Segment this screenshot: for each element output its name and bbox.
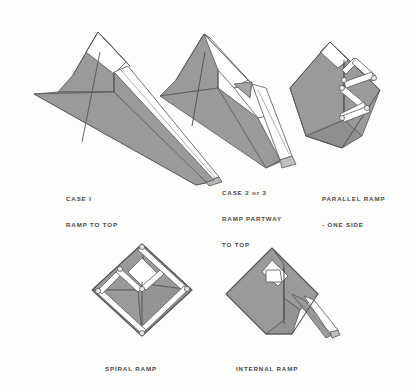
caption-parallel-line-2: - ONE SIDE — [322, 221, 385, 230]
diagram-parallel-ramp-one-side — [284, 24, 404, 159]
ramp-landing-2 — [371, 75, 376, 80]
caption-case-1-line-1: CASE I — [66, 195, 118, 204]
caption-spiral-line-1: SPIRAL RAMP — [105, 365, 157, 374]
caption-internal-line-1: INTERNAL RAMP — [236, 365, 298, 374]
caption-parallel-line-1: PARALLEL RAMP — [322, 195, 385, 204]
spiral-landing-east — [184, 286, 189, 291]
caption-parallel-ramp: PARALLEL RAMP - ONE SIDE — [322, 178, 385, 247]
spiral-landing-west — [95, 288, 100, 293]
caption-spiral-ramp: SPIRAL RAMP — [105, 348, 157, 391]
caption-case-1: CASE I RAMP TO TOP — [66, 178, 118, 247]
spiral-landing-center — [139, 286, 144, 291]
caption-case-1-line-2: RAMP TO TOP — [66, 221, 118, 230]
caption-internal-ramp: INTERNAL RAMP — [236, 348, 298, 391]
spiral-landing-south — [139, 330, 144, 335]
caption-case-2-line-1: CASE 2 or 3 — [222, 189, 282, 198]
caption-case-2-line-2: RAMP PARTWAY — [222, 215, 282, 224]
ramp-landing-5 — [339, 115, 344, 120]
ramp-landing-3 — [339, 85, 344, 90]
internal-ramp-opening — [266, 270, 282, 282]
spiral-landing-nw — [117, 266, 122, 271]
diagram-internal-ramp — [222, 238, 347, 343]
ramp-landing-4 — [364, 105, 369, 110]
ramp-landing-1 — [341, 77, 346, 82]
diagram-spiral-ramp — [88, 238, 203, 343]
pyramid-face-left — [226, 248, 284, 334]
spiral-landing-apex — [139, 244, 144, 249]
pyramid-ramp-diagram-sheet: CASE I RAMP TO TOP — [0, 0, 416, 392]
